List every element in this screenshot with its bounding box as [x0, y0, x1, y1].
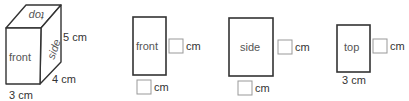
- front-height-unit: cm: [186, 40, 201, 52]
- cuboid-height-label: 5 cm: [63, 31, 87, 43]
- top-depth-unit: cm: [390, 40, 405, 52]
- side-height-input[interactable]: [278, 40, 292, 54]
- top-view: top cm 3 cm: [337, 25, 405, 86]
- side-depth-input[interactable]: [238, 81, 252, 95]
- cuboid-top-label: top: [29, 10, 44, 22]
- cuboid-depth-label: 4 cm: [52, 73, 76, 85]
- nets-diagram: top front side 5 cm 4 cm 3 cm front cm c…: [0, 0, 409, 101]
- side-height-unit: cm: [295, 41, 310, 53]
- side-view-label: side: [240, 41, 260, 53]
- top-width-label: 3 cm: [342, 74, 366, 86]
- cuboid: top front side 5 cm 4 cm 3 cm: [6, 5, 87, 101]
- front-width-unit: cm: [154, 81, 169, 93]
- cuboid-width-label: 3 cm: [9, 89, 33, 101]
- front-height-input[interactable]: [169, 39, 183, 53]
- cuboid-front-label: front: [9, 51, 31, 63]
- front-view-label: front: [136, 40, 158, 52]
- top-view-label: top: [344, 41, 359, 53]
- front-view: front cm cm: [133, 17, 201, 94]
- front-width-input[interactable]: [137, 80, 151, 94]
- top-depth-input[interactable]: [373, 39, 387, 53]
- side-depth-unit: cm: [255, 82, 270, 94]
- side-view: side cm cm: [229, 18, 310, 95]
